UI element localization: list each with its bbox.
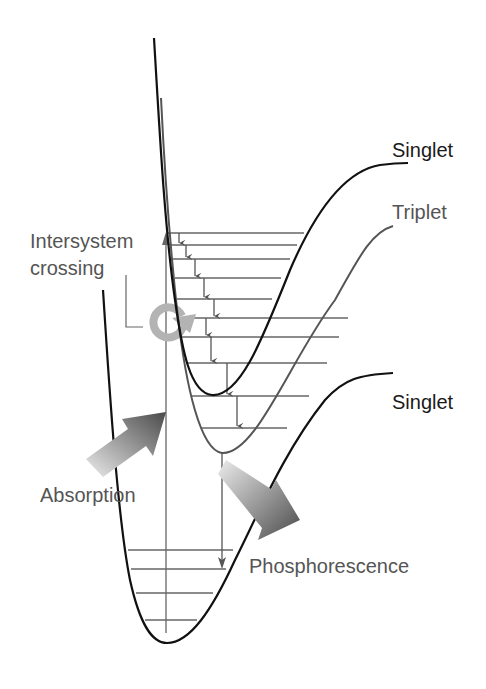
label-crossing: crossing: [30, 258, 104, 278]
intersystem-crossing-icon: [153, 307, 196, 337]
absorption-transition: [162, 232, 170, 633]
absorption-arrow: [86, 412, 166, 477]
label-singlet-lower: Singlet: [392, 392, 453, 412]
phosphorescence-arrow: [218, 460, 300, 540]
label-singlet-upper: Singlet: [392, 140, 453, 160]
label-intersystem: Intersystem: [30, 231, 133, 251]
intersystem-leader-line: [126, 275, 143, 327]
label-phosphorescence: Phosphorescence: [249, 556, 409, 576]
excited-singlet-curve: [154, 38, 408, 395]
label-absorption: Absorption: [40, 485, 136, 505]
triplet-curve: [161, 98, 393, 453]
energy-diagram: [0, 0, 486, 689]
label-triplet: Triplet: [392, 202, 447, 222]
ground-singlet-curve: [103, 290, 393, 643]
ground-singlet-levels: [128, 550, 233, 620]
